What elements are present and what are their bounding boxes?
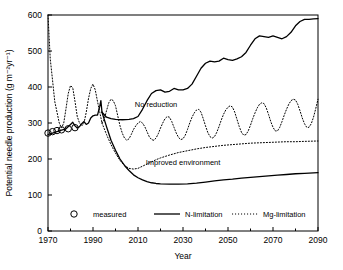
x-tick-label: 2010 <box>129 235 148 245</box>
y-tick-label: 400 <box>28 82 42 92</box>
figure-container: 0100200300400500600197019902010203020502… <box>0 0 343 270</box>
x-tick-label: 1990 <box>84 235 103 245</box>
annotation-label: Improved environment <box>146 158 222 167</box>
y-tick-label: 500 <box>28 46 42 56</box>
legend-marker-measured <box>71 211 77 217</box>
x-tick-label: 1970 <box>39 235 58 245</box>
annotation-label: No reduction <box>135 100 178 109</box>
series-line-solid <box>102 112 318 184</box>
series-line-dotted <box>48 15 102 128</box>
y-tick-label: 300 <box>28 118 42 128</box>
y-axis-title: Potential needle production (g m⁻²yr⁻¹) <box>4 49 14 196</box>
chart-plot: 0100200300400500600197019902010203020502… <box>0 0 343 270</box>
y-tick-label: 100 <box>28 190 42 200</box>
y-tick-label: 600 <box>28 10 42 20</box>
x-tick-label: 2070 <box>264 235 283 245</box>
legend-label: Mg-limitation <box>263 210 306 219</box>
legend-label: N-limitation <box>185 210 223 219</box>
x-tick-label: 2050 <box>219 235 238 245</box>
x-tick-label: 2090 <box>309 235 328 245</box>
y-tick-label: 200 <box>28 154 42 164</box>
legend-label: measured <box>93 210 126 219</box>
x-axis-title: Year <box>174 251 191 261</box>
x-tick-label: 2030 <box>174 235 193 245</box>
